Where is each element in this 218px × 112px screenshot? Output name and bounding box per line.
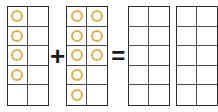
ten-frame-cell[interactable]: [149, 46, 169, 66]
ten-frame-cell[interactable]: [149, 27, 169, 47]
ten-frame-cell[interactable]: [67, 66, 87, 86]
ten-frame-cell[interactable]: [197, 7, 217, 27]
counter-circle-icon: [71, 69, 83, 81]
empty-cell-slot: [153, 69, 165, 81]
counter-circle-icon: [71, 10, 83, 22]
ten-frame-cell[interactable]: [129, 27, 149, 47]
ten-frame-cell[interactable]: [8, 46, 28, 66]
empty-cell-slot: [32, 89, 44, 101]
ten-frame-cell[interactable]: [87, 27, 107, 47]
addend-1-group: [7, 6, 49, 106]
plus-operator: +: [49, 43, 67, 69]
counter-circle-icon: [71, 49, 83, 61]
empty-cell-slot: [181, 10, 193, 22]
ten-frame-sum-1[interactable]: [128, 6, 170, 106]
empty-cell-slot: [133, 30, 145, 42]
empty-cell-slot: [201, 30, 213, 42]
counter-circle-icon: [91, 49, 103, 61]
empty-cell-slot: [153, 89, 165, 101]
ten-frame-cell[interactable]: [149, 7, 169, 27]
ten-frame-addend-2[interactable]: [66, 6, 108, 106]
ten-frame-cell[interactable]: [28, 85, 48, 105]
ten-frame-cell[interactable]: [197, 66, 217, 86]
ten-frame-cell[interactable]: [8, 7, 28, 27]
ten-frame-cell[interactable]: [8, 66, 28, 86]
empty-cell-slot: [201, 89, 213, 101]
empty-cell-slot: [181, 89, 193, 101]
ten-frame-cell[interactable]: [177, 46, 197, 66]
ten-frame-cell[interactable]: [177, 7, 197, 27]
empty-cell-slot: [153, 10, 165, 22]
empty-cell-slot: [201, 10, 213, 22]
empty-cell-slot: [153, 49, 165, 61]
ten-frame-cell[interactable]: [87, 7, 107, 27]
addend-2-group: [66, 6, 108, 106]
ten-frame-cell[interactable]: [67, 46, 87, 66]
empty-cell-slot: [181, 30, 193, 42]
ten-frame-cell[interactable]: [87, 66, 107, 86]
ten-frame-cell[interactable]: [67, 85, 87, 105]
empty-cell-slot: [133, 89, 145, 101]
ten-frame-sum-2[interactable]: [176, 6, 218, 106]
empty-cell-slot: [201, 49, 213, 61]
counter-circle-icon: [91, 10, 103, 22]
ten-frame-cell[interactable]: [149, 66, 169, 86]
counter-circle-icon: [11, 49, 23, 61]
empty-cell-slot: [91, 89, 103, 101]
empty-cell-slot: [153, 30, 165, 42]
counter-circle-icon: [71, 30, 83, 42]
empty-cell-slot: [11, 89, 23, 101]
ten-frame-cell[interactable]: [8, 27, 28, 47]
empty-cell-slot: [32, 30, 44, 42]
sum-group: [128, 6, 218, 106]
ten-frame-cell[interactable]: [197, 46, 217, 66]
empty-cell-slot: [32, 69, 44, 81]
counter-circle-icon: [11, 30, 23, 42]
counter-circle-icon: [71, 89, 83, 101]
empty-cell-slot: [181, 49, 193, 61]
ten-frame-cell[interactable]: [177, 85, 197, 105]
ten-frame-cell[interactable]: [177, 66, 197, 86]
equals-operator: =: [108, 44, 128, 68]
counter-circle-icon: [91, 30, 103, 42]
counter-circle-icon: [11, 10, 23, 22]
ten-frame-cell[interactable]: [129, 46, 149, 66]
ten-frame-cell[interactable]: [129, 66, 149, 86]
ten-frame-cell[interactable]: [197, 85, 217, 105]
ten-frame-addend-1[interactable]: [7, 6, 49, 106]
empty-cell-slot: [91, 69, 103, 81]
empty-cell-slot: [181, 69, 193, 81]
empty-cell-slot: [133, 69, 145, 81]
empty-cell-slot: [133, 49, 145, 61]
empty-cell-slot: [201, 69, 213, 81]
ten-frame-cell[interactable]: [87, 85, 107, 105]
empty-cell-slot: [32, 10, 44, 22]
ten-frame-cell[interactable]: [8, 85, 28, 105]
ten-frame-cell[interactable]: [129, 7, 149, 27]
empty-cell-slot: [133, 10, 145, 22]
ten-frame-equation: + =: [0, 0, 218, 112]
empty-cell-slot: [32, 49, 44, 61]
ten-frame-cell[interactable]: [129, 85, 149, 105]
ten-frame-cell[interactable]: [197, 27, 217, 47]
ten-frame-cell[interactable]: [177, 27, 197, 47]
ten-frame-cell[interactable]: [28, 7, 48, 27]
ten-frame-cell[interactable]: [149, 85, 169, 105]
ten-frame-cell[interactable]: [28, 46, 48, 66]
ten-frame-cell[interactable]: [28, 66, 48, 86]
ten-frame-cell[interactable]: [87, 46, 107, 66]
ten-frame-cell[interactable]: [67, 7, 87, 27]
ten-frame-cell[interactable]: [28, 27, 48, 47]
counter-circle-icon: [11, 69, 23, 81]
ten-frame-cell[interactable]: [67, 27, 87, 47]
